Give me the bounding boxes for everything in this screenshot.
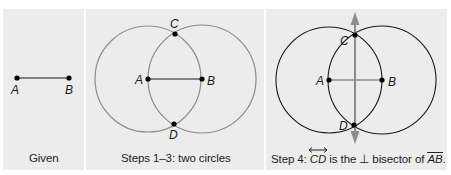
caption-given: Given: [29, 152, 59, 164]
label-d: D: [339, 119, 348, 133]
label-b: B: [65, 83, 73, 97]
caption-segment-name: AB: [427, 153, 442, 165]
label-c: C: [170, 17, 179, 31]
caption-two-circles: Steps 1–3: two circles: [121, 152, 231, 164]
label-b: B: [388, 75, 396, 89]
point-b: [66, 75, 71, 80]
point-d: [351, 122, 356, 127]
point-b: [379, 77, 384, 82]
arrow-up-icon: [351, 12, 360, 25]
caption-prefix: Step 4:: [271, 153, 310, 165]
point-a: [145, 76, 150, 81]
point-c: [352, 32, 357, 37]
point-c: [172, 31, 177, 36]
caption-line-name: CD: [310, 153, 326, 165]
arrow-down-icon: [351, 131, 360, 144]
label-a: A: [315, 74, 324, 88]
point-a: [14, 75, 19, 80]
segment-ab-notation: AB: [427, 153, 442, 165]
caption-mid: is the ⊥ bisector of: [326, 153, 427, 165]
label-b: B: [207, 74, 215, 88]
point-d: [171, 121, 176, 126]
caption-suffix: .: [443, 153, 446, 165]
label-a: A: [10, 83, 19, 97]
construction-figure: A B A B C D A B C D: [0, 0, 451, 175]
label-c: C: [340, 34, 349, 48]
label-a: A: [134, 73, 143, 87]
line-cd-notation: CD: [310, 153, 326, 165]
point-a: [326, 77, 331, 82]
caption-bisector: Step 4: CD is the ⊥ bisector of AB.: [271, 152, 446, 166]
bisector-figure: A B C D: [276, 12, 436, 144]
given-figure: A B: [10, 75, 73, 97]
label-d: D: [169, 128, 178, 142]
two-circles-figure: A B C D: [95, 17, 256, 142]
double-arrow-icon: [308, 147, 328, 153]
point-b: [199, 76, 204, 81]
overline-bar: [427, 152, 442, 153]
